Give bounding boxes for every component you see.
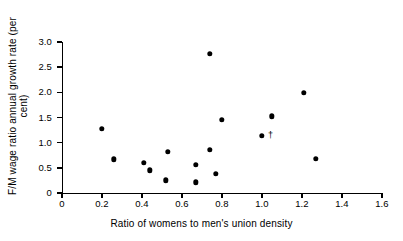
- x-tick-label: 0.8: [202, 199, 242, 209]
- x-tick-label: 1.2: [282, 199, 322, 209]
- dagger-annotation: †: [268, 131, 273, 140]
- y-axis-label: F/M wage ratio annual growth rate (per c…: [7, 6, 29, 206]
- scatter-chart-figure: 00.51.01.52.02.53.0 00.20.40.60.81.01.21…: [0, 0, 403, 241]
- x-tick-label: 1.6: [362, 199, 402, 209]
- x-axis-label: Ratio of womens to men's union density: [0, 218, 403, 229]
- x-tick-label: 1.0: [242, 199, 282, 209]
- x-tick-label: 1.4: [322, 199, 362, 209]
- x-tick-label: 0.6: [162, 199, 202, 209]
- x-tick-label: 0.4: [122, 199, 162, 209]
- x-tick-label: 0: [42, 199, 82, 209]
- x-tick-label: 0.2: [82, 199, 122, 209]
